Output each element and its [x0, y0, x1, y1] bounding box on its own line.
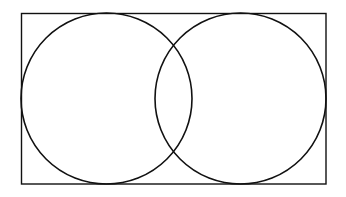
universe-rectangle: [22, 14, 327, 185]
venn-diagram: [0, 0, 346, 197]
left-circle: [21, 13, 192, 184]
right-circle: [155, 13, 326, 184]
